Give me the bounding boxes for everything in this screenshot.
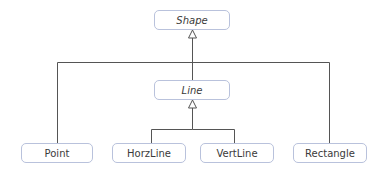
class-node-point[interactable]: Point: [21, 143, 93, 163]
class-label: Rectangle: [305, 148, 355, 159]
class-label: HorzLine: [127, 148, 171, 159]
generalization-arrow-icon: [189, 100, 197, 108]
edge-point-to-shape: [58, 63, 193, 144]
generalization-arrow-icon: [189, 30, 197, 38]
edge-horzline-to-line: [152, 130, 193, 144]
class-label: Shape: [176, 15, 207, 26]
class-label: Line: [182, 85, 203, 96]
class-node-line[interactable]: Line: [154, 80, 230, 100]
edge-rectangle-to-shape: [193, 63, 330, 144]
class-node-vertline[interactable]: VertLine: [200, 143, 274, 163]
class-node-rectangle[interactable]: Rectangle: [293, 143, 367, 163]
class-node-horzline[interactable]: HorzLine: [112, 143, 186, 163]
class-node-shape[interactable]: Shape: [154, 10, 230, 30]
class-label: VertLine: [216, 148, 257, 159]
edge-vertline-to-line: [193, 130, 235, 144]
class-label: Point: [45, 148, 70, 159]
